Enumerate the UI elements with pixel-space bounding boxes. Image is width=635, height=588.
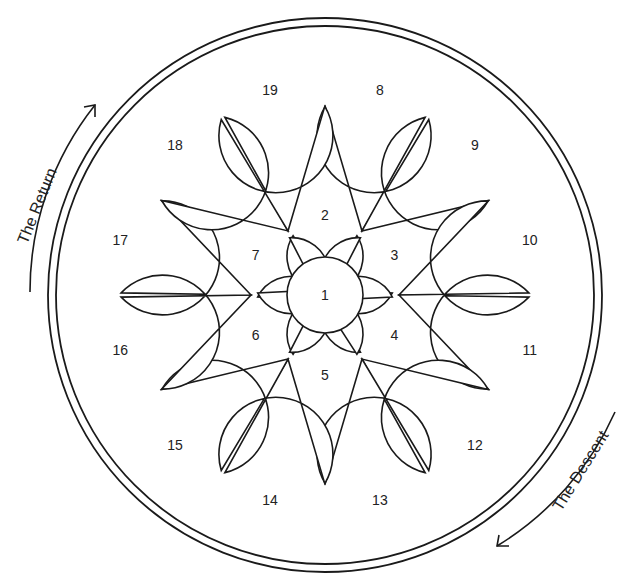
inner-petal-2-label: 2 (321, 207, 329, 223)
inner-petal-3-label: 3 (390, 247, 398, 263)
descent-caption: The Descent (549, 427, 612, 513)
inner-petal-4-label: 4 (390, 327, 398, 343)
center-circle-label: 1 (321, 287, 329, 303)
outer-petal-11-label: 11 (523, 342, 538, 358)
outer-petal-13: 13 (317, 359, 431, 508)
outer-petal-17-label: 17 (112, 232, 128, 248)
inner-petal-5-label: 5 (321, 367, 329, 383)
center-circle-group: 1 (287, 257, 363, 333)
outer-petal-15-label: 15 (167, 437, 183, 453)
outer-petal-8-label: 8 (376, 82, 384, 98)
outer-petal-9-label: 9 (471, 137, 479, 153)
rose-window-diagram: 8910111213141516171819 234567 1 The Retu… (0, 0, 635, 588)
outer-petal-12-label: 12 (467, 437, 483, 453)
outer-petal-14-label: 14 (262, 492, 278, 508)
outer-petal-10-label: 10 (522, 232, 538, 248)
return-caption-group: The Return (14, 105, 95, 292)
inner-petal-7-label: 7 (252, 247, 260, 263)
outer-petal-16-label: 16 (112, 342, 128, 358)
outer-petal-19-label: 19 (262, 82, 278, 98)
return-caption: The Return (14, 166, 60, 247)
outer-petal-19: 19 (219, 82, 333, 231)
inner-petal-6-label: 6 (252, 327, 260, 343)
outer-petal-13-label: 13 (372, 492, 388, 508)
outer-petal-18-label: 18 (167, 137, 183, 153)
